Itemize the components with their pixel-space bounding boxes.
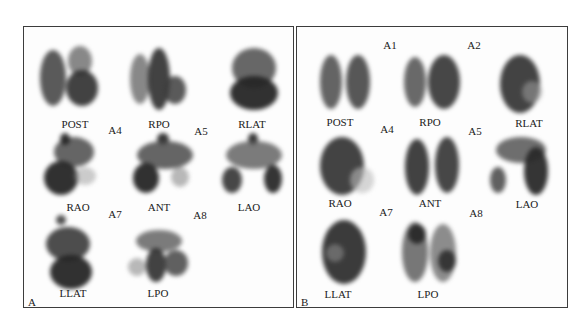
panel-b-annotation-a5: A5 [468, 126, 481, 137]
panel-a-scan-rlat [228, 46, 280, 116]
panel-a-annotation-a4: A4 [108, 125, 121, 136]
panel-a-annotation-a8: A8 [193, 210, 206, 221]
panel-b-view-label-rpo: RPO [419, 117, 440, 128]
panel-b-view-label-llat: LLAT [325, 289, 352, 300]
panel-b-annotation-a4: A4 [380, 124, 393, 135]
panel-a-view-label-ant: ANT [148, 202, 171, 213]
panel-b-annotation-a8: A8 [469, 208, 482, 219]
panel-b-view-label-rao: RAO [328, 198, 351, 209]
panel-b-annotation-a7: A7 [379, 207, 392, 218]
panel-a-view-label-rlat: RLAT [238, 119, 266, 130]
panel-a-scan-lpo [128, 220, 190, 296]
panel-b-scan-llat [322, 220, 368, 286]
panel-a-scan-lao [222, 133, 286, 199]
panel-a-view-label-lpo: LPO [148, 288, 169, 299]
panel-b-scan-rlat [500, 55, 546, 115]
panel-a-scan-llat [44, 215, 96, 295]
panel-a-view-label-lao: LAO [238, 202, 261, 213]
panel-b-view-label-rlat: RLAT [515, 118, 543, 129]
panel-b-view-label-post: POST [327, 117, 354, 128]
panel-a-scan-post [38, 44, 100, 114]
panel-b-view-label-ant: ANT [419, 198, 442, 209]
panel-a-annotation-a7: A7 [108, 209, 121, 220]
panel-b-scan-rpo [404, 55, 462, 111]
panel-b-view-label-lao: LAO [516, 199, 539, 210]
panel-a-view-label-post: POST [62, 119, 89, 130]
panel-a-scan-rpo [128, 46, 188, 116]
panel-b-scan-ant [405, 137, 461, 197]
panel-a-scan-rao [44, 133, 104, 199]
panel-b-label: B [301, 297, 308, 308]
panel-a-scan-ant [133, 133, 195, 199]
panel-b-scan-rao [320, 137, 376, 197]
panel-b-scan-lpo [402, 222, 458, 286]
panel-b-view-label-lpo: LPO [418, 289, 439, 300]
panel-a-view-label-llat: LLAT [60, 288, 87, 299]
panel-b-scan-lao [490, 137, 552, 197]
panel-a-view-label-rao: RAO [66, 202, 89, 213]
panel-a-label: A [28, 297, 36, 308]
panel-a-view-label-rpo: RPO [148, 119, 169, 130]
panel-b-scan-post [318, 55, 374, 111]
panel-a-annotation-a5: A5 [194, 126, 207, 137]
panel-b-annotation-a1: A1 [383, 40, 396, 51]
panel-b-annotation-a2: A2 [467, 40, 480, 51]
